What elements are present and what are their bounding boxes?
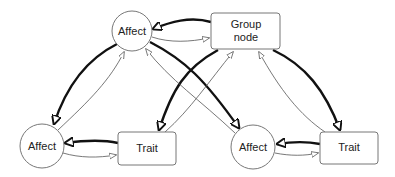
- edge-affect-bottom-right-to-trait-right: [275, 153, 318, 155]
- edge-group-to-affect-top: [153, 20, 211, 29]
- edge-trait-left-to-affect-bottom-left: [65, 141, 118, 143]
- node-trait-left: Trait: [118, 132, 176, 165]
- node-affect-bottom-left: Affect: [20, 124, 64, 168]
- node-label-line2: node: [234, 31, 258, 43]
- node-label-line1: Group: [231, 18, 262, 30]
- node-label: Trait: [338, 141, 360, 153]
- node-trait-right: Trait: [320, 132, 378, 164]
- node-label: Affect: [28, 140, 56, 152]
- edge-trait-right-to-affect-bottom-right: [277, 142, 320, 144]
- edge-affect-top-to-affect-bottom-left: [54, 44, 117, 124]
- network-diagram: Affect Group node Affect Trait Affect Tr…: [0, 0, 395, 177]
- node-group: Group node: [211, 13, 280, 49]
- edge-affect-top-to-group: [152, 37, 209, 41]
- thick-edges: [54, 20, 340, 144]
- node-label: Trait: [136, 142, 158, 154]
- node-affect-top: Affect: [112, 11, 152, 51]
- node-label: Affect: [118, 25, 146, 37]
- edge-trait-right-to-group: [259, 52, 325, 132]
- node-affect-bottom-right: Affect: [231, 125, 275, 169]
- edge-affect-bottom-right-to-affect-top: [146, 49, 235, 133]
- node-label: Affect: [239, 141, 267, 153]
- edge-affect-bottom-left-to-trait-left: [63, 153, 116, 157]
